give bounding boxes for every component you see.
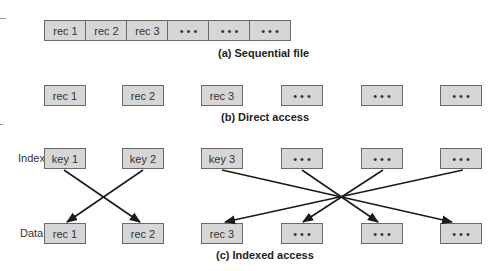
- arrow-index6-to-rec3: [225, 170, 463, 222]
- caption-indexed: (c) Indexed access: [216, 249, 314, 261]
- arrow-key1-to-rec2: [64, 170, 140, 222]
- arrow-index4-to-data5: [302, 170, 378, 222]
- arrow-key3-to-data6: [222, 170, 452, 222]
- arrow-key2-to-rec1: [67, 170, 143, 222]
- index-pointer-arrows: [0, 0, 503, 271]
